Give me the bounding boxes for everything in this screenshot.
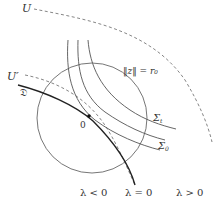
label-U: U — [22, 2, 32, 15]
label-U-prime: U′ — [7, 70, 19, 83]
curve-U-prime-dashed — [25, 75, 135, 185]
label-lambda-pos: λ > 0 — [176, 187, 203, 198]
label-sigma-0: Σ0 — [157, 140, 169, 152]
diagram-canvas: U U′ 𝔇 0 ‖z‖ = r₀ Σt Σ0 λ < 0 λ = 0 λ > … — [0, 0, 218, 207]
label-origin: 0 — [80, 120, 86, 130]
label-lambda-zero: λ = 0 — [125, 187, 152, 198]
origin-point — [87, 114, 91, 118]
label-lambda-neg: λ < 0 — [80, 187, 107, 198]
label-D: 𝔇 — [20, 87, 27, 98]
label-norm: ‖z‖ = r₀ — [123, 66, 158, 77]
label-sigma-t: Σt — [152, 112, 163, 124]
sigma-curve-1 — [68, 40, 160, 150]
sigma-curve-0 — [88, 40, 176, 129]
sigma-curve-t — [78, 40, 165, 140]
